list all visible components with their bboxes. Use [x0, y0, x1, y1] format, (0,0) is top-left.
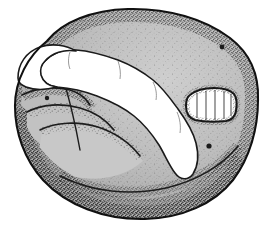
figure-root: Stone artifact line drawing lithic core …: [0, 0, 270, 230]
inclusion-dot-right-rim: [206, 143, 211, 148]
inclusion-dot-left-facet: [45, 96, 49, 100]
inclusion-dot-upper-right: [220, 45, 225, 50]
artifact-illustration: [0, 0, 270, 230]
small-flake-scar: [186, 88, 237, 122]
